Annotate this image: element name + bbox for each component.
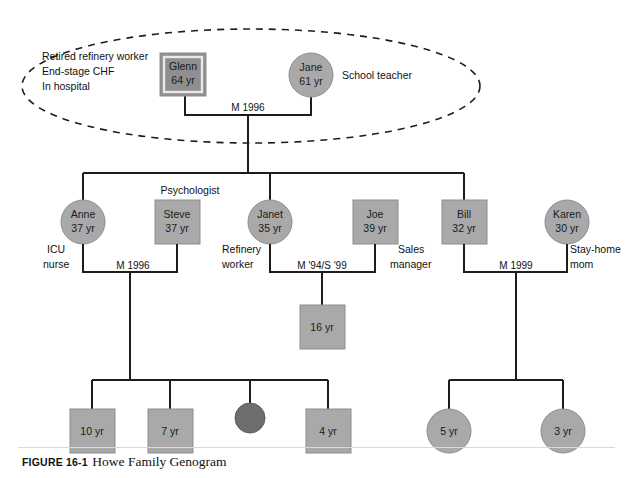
note-janet-line1: Refinery: [222, 243, 262, 255]
note-anne-line2: nurse: [43, 258, 69, 270]
relationship-label-janet-joe: M '94/S '99: [297, 260, 347, 271]
child-16yr-age: 16 yr: [310, 321, 334, 333]
note-bill-line1: Sales: [398, 243, 424, 255]
caption-rule: [18, 447, 615, 448]
genogram-figure: M 1996 Glenn 64 yr Jane 61 yr Retired re…: [0, 0, 633, 478]
note-bill-line2: manager: [390, 258, 432, 270]
child-3yr-age: 3 yr: [554, 425, 572, 437]
person-glenn-name: Glenn: [169, 60, 197, 72]
note-steve: Psychologist: [161, 184, 220, 196]
note-glenn-line3: In hospital: [42, 80, 90, 92]
genogram-canvas: M 1996 Glenn 64 yr Jane 61 yr Retired re…: [0, 0, 633, 478]
person-janet-age: 35 yr: [258, 222, 282, 234]
note-glenn-line2: End-stage CHF: [42, 65, 114, 77]
child-4yr-age: 4 yr: [319, 425, 337, 437]
child-5yr-age: 5 yr: [440, 425, 458, 437]
note-janet-line2: worker: [221, 258, 254, 270]
note-karen-line2: mom: [570, 258, 594, 270]
person-steve-name: Steve: [164, 208, 191, 220]
note-jane: School teacher: [342, 69, 413, 81]
note-glenn-line1: Retired refinery worker: [42, 50, 149, 62]
person-joe-age: 39 yr: [363, 222, 387, 234]
household-ellipse: [22, 29, 480, 143]
relationship-label-glenn-jane: M 1996: [231, 102, 265, 113]
note-karen-line1: Stay-home: [570, 243, 621, 255]
person-jane-age: 61 yr: [299, 75, 323, 87]
person-steve-age: 37 yr: [165, 222, 189, 234]
person-bill-name: Bill: [457, 208, 471, 220]
person-anne-age: 37 yr: [71, 222, 95, 234]
person-karen-age: 30 yr: [555, 222, 579, 234]
person-anne-name: Anne: [71, 208, 96, 220]
person-karen-name: Karen: [553, 208, 581, 220]
figure-caption: FIGURE 16-1 Howe Family Genogram: [22, 452, 227, 470]
relationship-label-bill-karen: M 1999: [499, 260, 533, 271]
child-7yr-age: 7 yr: [161, 425, 179, 437]
relationship-label-anne-steve: M 1996: [116, 260, 150, 271]
figure-number: FIGURE 16-1: [22, 456, 88, 468]
person-joe-name: Joe: [367, 208, 384, 220]
child-deceased-circle[interactable]: [235, 403, 265, 433]
person-jane-name: Jane: [300, 61, 323, 73]
person-bill-age: 32 yr: [452, 222, 476, 234]
note-anne-line1: ICU: [47, 243, 65, 255]
person-janet-name: Janet: [257, 208, 283, 220]
child-10yr-age: 10 yr: [80, 425, 104, 437]
person-glenn-age: 64 yr: [171, 74, 195, 86]
figure-title: Howe Family Genogram: [92, 454, 226, 469]
